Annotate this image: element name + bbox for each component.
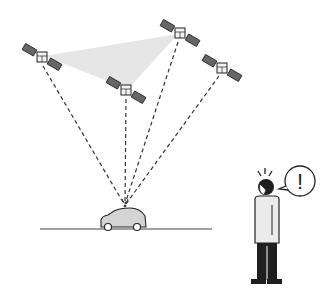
exclamation-mark: ! bbox=[297, 169, 303, 194]
person-icon bbox=[251, 168, 282, 284]
gnss-diagram: ! bbox=[0, 0, 334, 305]
satellite-icon bbox=[202, 54, 242, 81]
car-icon bbox=[101, 208, 146, 231]
diagram-canvas: ! bbox=[0, 0, 334, 305]
speech-bubble: ! bbox=[279, 166, 315, 196]
